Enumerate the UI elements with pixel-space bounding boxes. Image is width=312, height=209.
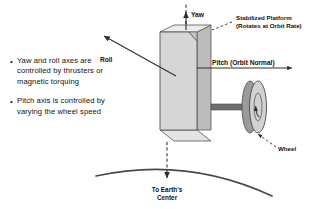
- wheel-face: [250, 81, 267, 133]
- spacecraft-body-side-face: [197, 25, 211, 130]
- roll-axis-label: Roll: [100, 56, 113, 63]
- pitch-axis-label: Pitch (Orbit Normal): [212, 59, 275, 67]
- diagram-canvas: Yaw Roll Pitch (Orbit Normal) Stabilized…: [0, 0, 312, 209]
- platform-callout-line1: Stabilized Platform: [236, 14, 292, 21]
- earth-center-label-line2: Center: [157, 194, 178, 201]
- spacecraft-body-front-face: [160, 32, 197, 130]
- attitude-control-diagram: • Yaw and roll axes are controlled by th…: [0, 0, 312, 209]
- yaw-axis-label: Yaw: [191, 11, 205, 18]
- earth-horizon-arc: [96, 169, 272, 196]
- platform-callout-leader: [212, 22, 232, 30]
- earth-center-label-line1: To Earth's: [152, 186, 183, 193]
- spacecraft-body-bottom-face: [160, 130, 211, 141]
- wheel-callout-leader: [258, 134, 276, 147]
- wheel-callout-label: Wheel: [278, 145, 297, 152]
- platform-callout-line2: (Rotates at Orbit Rate): [236, 22, 302, 29]
